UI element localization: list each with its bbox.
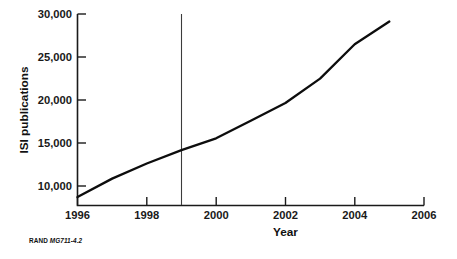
y-tick-label: 15,000 — [38, 137, 72, 149]
y-tick-label: 30,000 — [38, 8, 72, 20]
x-tick-label: 2000 — [204, 209, 229, 221]
y-tick-label: 10,000 — [38, 180, 72, 192]
x-tick-label: 2002 — [273, 209, 298, 221]
x-axis-title: Year — [273, 225, 298, 239]
y-tick-label: 20,000 — [38, 94, 72, 106]
x-tick-label: 1998 — [134, 209, 159, 221]
line-chart: 30,000 25,000 20,000 15,000 10,000 1996 … — [0, 0, 457, 259]
x-axis-tick-labels: 1996 1998 2000 2002 2004 2006 — [65, 209, 436, 221]
credit-organization: RAND — [29, 237, 48, 244]
y-tick-label: 25,000 — [38, 51, 72, 63]
y-axis-tick-labels: 30,000 25,000 20,000 15,000 10,000 — [38, 8, 72, 192]
credit-identifier: MG711-4.2 — [50, 237, 82, 244]
x-tick-label: 2004 — [342, 209, 368, 221]
x-tick-marks — [78, 197, 425, 206]
y-axis-title: ISI publications — [17, 66, 31, 154]
data-series-line — [78, 22, 390, 198]
y-tick-marks — [78, 14, 87, 186]
figure-credit: RAND MG711-4.2 — [29, 237, 82, 244]
x-tick-label: 1996 — [65, 209, 90, 221]
figure-container: 30,000 25,000 20,000 15,000 10,000 1996 … — [0, 0, 457, 259]
x-tick-label: 2006 — [412, 209, 437, 221]
axis-frame — [78, 14, 425, 206]
